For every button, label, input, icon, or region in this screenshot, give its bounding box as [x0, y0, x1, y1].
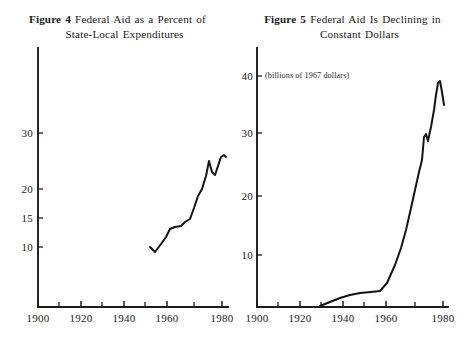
figure-5-ytick-30: 30: [242, 127, 254, 139]
figure-4-xtick-1980: 1980: [211, 312, 234, 324]
figure-5-xtick-1980: 1980: [432, 312, 455, 324]
figure-5-xtick-1920: 1920: [289, 312, 312, 324]
figure-5-xtick-1940: 1940: [332, 312, 355, 324]
figure-4-xtick-1920: 1920: [70, 312, 93, 324]
figure-4-xtick-1960: 1960: [156, 312, 179, 324]
figure-4-ytick-20: 20: [22, 183, 34, 195]
figure-5-xtick-1960: 1960: [375, 312, 398, 324]
figure-5-units-note: (billions of 1967 dollars): [265, 71, 349, 80]
figure-4-ytick-10: 10: [22, 241, 34, 253]
figure-4-xtick-1900: 1900: [27, 312, 50, 324]
figure-4-ytick-15: 15: [22, 212, 34, 224]
figure-5-ytick-40: 40: [242, 70, 254, 82]
figure-5: Figure 5 Federal Aid Is Declining in Con…: [235, 0, 470, 350]
figure-4-data-line: [150, 155, 226, 252]
figure-5-ytick-10: 10: [242, 249, 254, 261]
figure-5-ytick-20: 20: [242, 190, 254, 202]
figure-5-plot: 40 30 20 10 (billions of 1967 dollars) 1…: [235, 0, 470, 350]
figure-5-data-line: [320, 81, 444, 306]
figure-5-xtick-1900: 1900: [246, 312, 269, 324]
figure-4-xtick-1940: 1940: [113, 312, 136, 324]
figure-4-plot: 30 20 15 10 1900 1920 1940 1960 1980: [0, 0, 235, 350]
figure-4: Figure 4 Federal Aid as a Percent of Sta…: [0, 0, 235, 350]
figure-4-ytick-30: 30: [22, 127, 34, 139]
